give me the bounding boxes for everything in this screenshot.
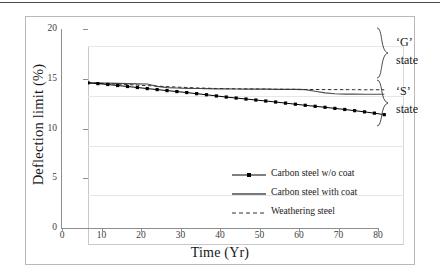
s-state-label-line1: ‘S’ <box>396 85 411 98</box>
x-tick-mark-60 <box>299 228 300 232</box>
x-tick-label-60: 60 <box>287 231 311 241</box>
g-state-brace <box>374 27 396 79</box>
x-tick-mark-70 <box>339 228 340 232</box>
x-tick-mark-30 <box>181 228 182 232</box>
x-tick-label-80: 80 <box>366 231 390 241</box>
x-tick-label-70: 70 <box>327 231 351 241</box>
x-tick-mark-40 <box>220 228 221 232</box>
g-state-label-line2: state <box>396 54 418 67</box>
g-state-label-line1: ‘G’ <box>396 36 413 49</box>
x-tick-label-0: 0 <box>50 231 74 241</box>
x-tick-mark-20 <box>141 228 142 232</box>
x-tick-mark-80 <box>378 228 379 232</box>
x-tick-label-10: 10 <box>90 231 114 241</box>
x-tick-mark-10 <box>102 228 103 232</box>
y-axis-title: Deflection limit (%) <box>30 25 47 225</box>
x-tick-label-50: 50 <box>248 231 272 241</box>
x-tick-mark-50 <box>260 228 261 232</box>
x-tick-label-30: 30 <box>169 231 193 241</box>
x-tick-label-20: 20 <box>129 231 153 241</box>
x-axis-title: Time (Yr) <box>62 245 378 261</box>
s-state-brace <box>374 79 396 127</box>
x-tick-mark-0 <box>62 228 63 232</box>
s-state-label-line2: state <box>396 103 418 116</box>
x-tick-label-40: 40 <box>208 231 232 241</box>
